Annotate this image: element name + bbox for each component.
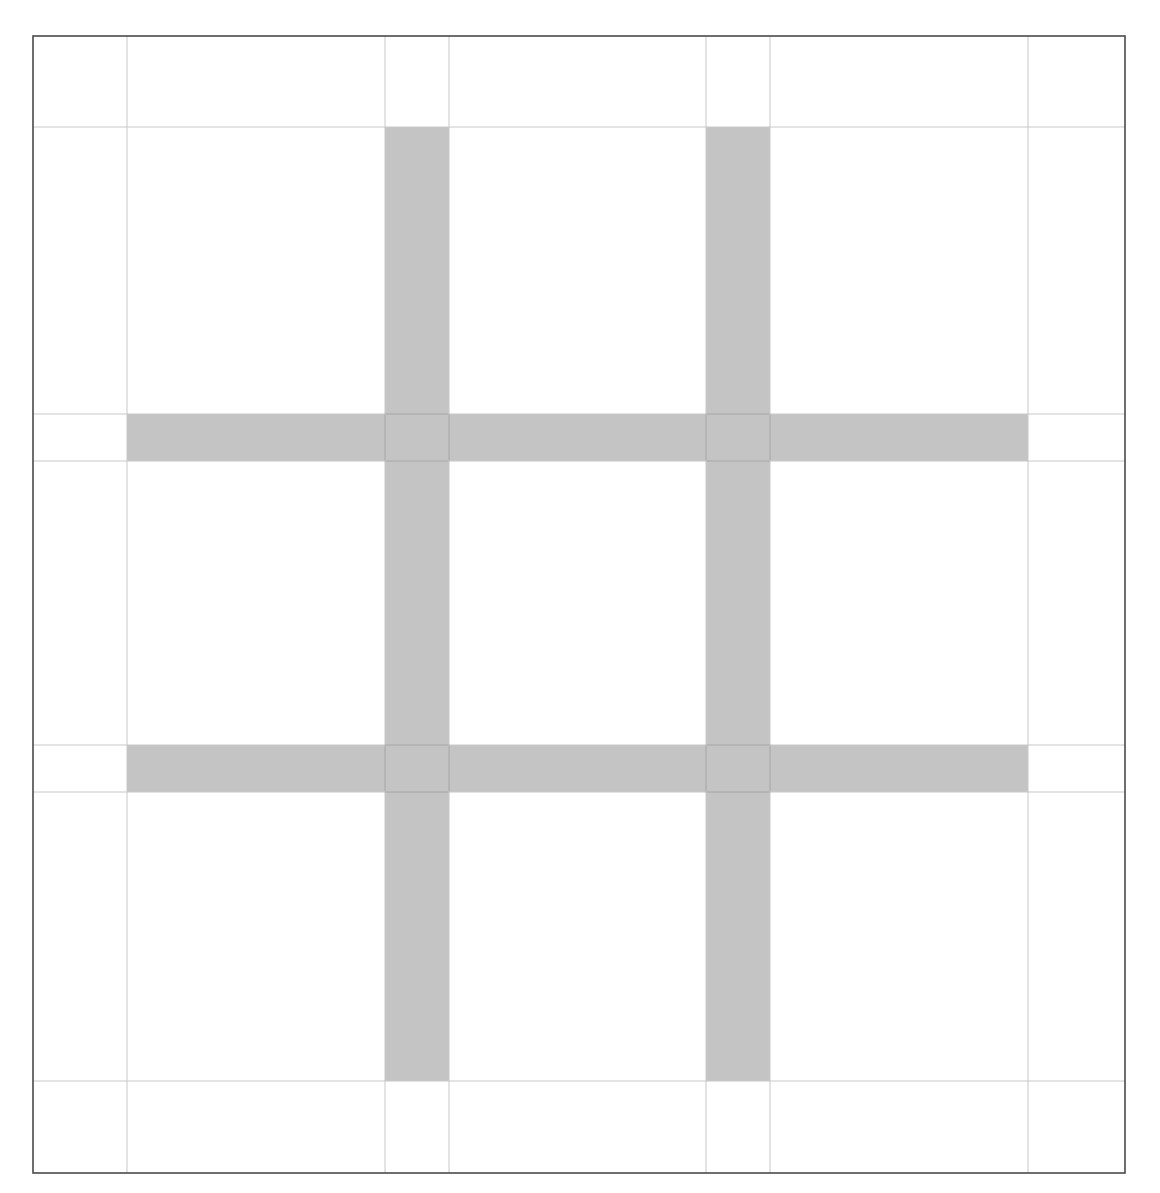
- gutter-bands: [127, 127, 1028, 1081]
- grid-diagram-svg: [0, 0, 1160, 1193]
- horizontal-band-1: [127, 414, 1028, 461]
- vertical-band-2: [706, 127, 770, 1081]
- vertical-band-1: [385, 127, 449, 1081]
- outer-frame: [33, 36, 1125, 1173]
- grid-diagram: [0, 0, 1160, 1193]
- frame-border: [33, 36, 1125, 1173]
- horizontal-band-2: [127, 745, 1028, 792]
- guide-lines: [33, 36, 1125, 1173]
